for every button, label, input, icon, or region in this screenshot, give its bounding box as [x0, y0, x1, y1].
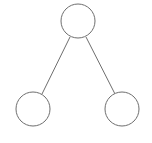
edges	[42, 37, 115, 94]
tree-diagram	[0, 0, 152, 143]
edge-root-to-left-child	[42, 37, 70, 94]
node-right-child	[105, 92, 139, 126]
node-left-child	[16, 92, 50, 126]
nodes	[16, 4, 139, 126]
node-root	[61, 4, 95, 38]
edge-root-to-right-child	[86, 37, 115, 94]
